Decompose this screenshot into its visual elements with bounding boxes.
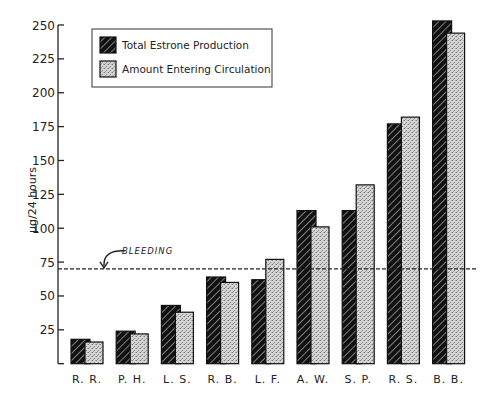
y-tick-label: 175 [32, 120, 55, 134]
legend: Total Estrone Production Amount Entering… [92, 29, 272, 87]
category-label: R. B. [207, 373, 237, 386]
y-tick-label: 250 [32, 19, 55, 33]
y-tick-label: 50 [40, 289, 55, 303]
y-tick-label: 225 [32, 52, 55, 66]
category-label: A. W. [297, 373, 329, 386]
bar-entering-circulation [311, 227, 329, 364]
bar-entering-circulation [401, 117, 419, 364]
category-label: L. S. [163, 373, 192, 386]
bar-entering-circulation [266, 259, 284, 363]
legend-swatch-hatched [100, 37, 116, 53]
bar-entering-circulation [130, 334, 148, 364]
bar-entering-circulation [447, 33, 465, 364]
bar-entering-circulation [175, 312, 193, 363]
y-axis-label: μg/24 hours [26, 167, 39, 233]
legend-swatch-stippled [100, 61, 116, 77]
bar-entering-circulation [221, 282, 239, 363]
category-label: P. H. [118, 373, 147, 386]
y-tick-label: 200 [32, 86, 55, 100]
category-label: R. R. [72, 373, 102, 386]
category-label: S. P. [344, 373, 371, 386]
y-tick-label: 75 [40, 256, 55, 270]
category-label: R. S. [389, 373, 419, 386]
bar-entering-circulation [85, 342, 103, 364]
category-labels: R. R.P. H.L. S.R. B.L. F.A. W.S. P.R. S.… [72, 373, 464, 386]
legend-label-total: Total Estrone Production [121, 39, 249, 51]
bleeding-label: BLEEDING [122, 246, 173, 256]
legend-label-circulation: Amount Entering Circulation [122, 63, 271, 75]
y-tick-label: 150 [32, 154, 55, 168]
bar-entering-circulation [356, 185, 374, 364]
y-tick-label: 25 [40, 323, 55, 337]
category-label: B. B. [433, 373, 464, 386]
estrone-bar-chart: 255075100125150175200225250 BLEEDING R. … [0, 0, 494, 393]
category-label: L. F. [255, 373, 281, 386]
